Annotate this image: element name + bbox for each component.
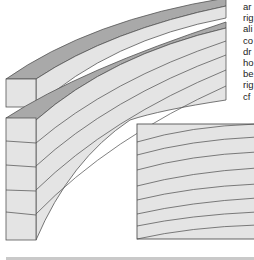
text-line: co (243, 35, 254, 46)
laminated-wood-illustration (0, 0, 254, 260)
cropped-body-text: ar rig ali co dr ho be rig cf (243, 1, 254, 102)
inset-detail-panel (137, 124, 254, 239)
text-line: ar (243, 1, 254, 12)
text-line: dr (243, 46, 254, 57)
text-line: be (243, 68, 254, 79)
text-line: ho (243, 57, 254, 68)
text-line: rig (243, 12, 254, 23)
text-line: cf (243, 91, 254, 102)
text-line: ali (243, 23, 254, 34)
text-line: rig (243, 79, 254, 90)
